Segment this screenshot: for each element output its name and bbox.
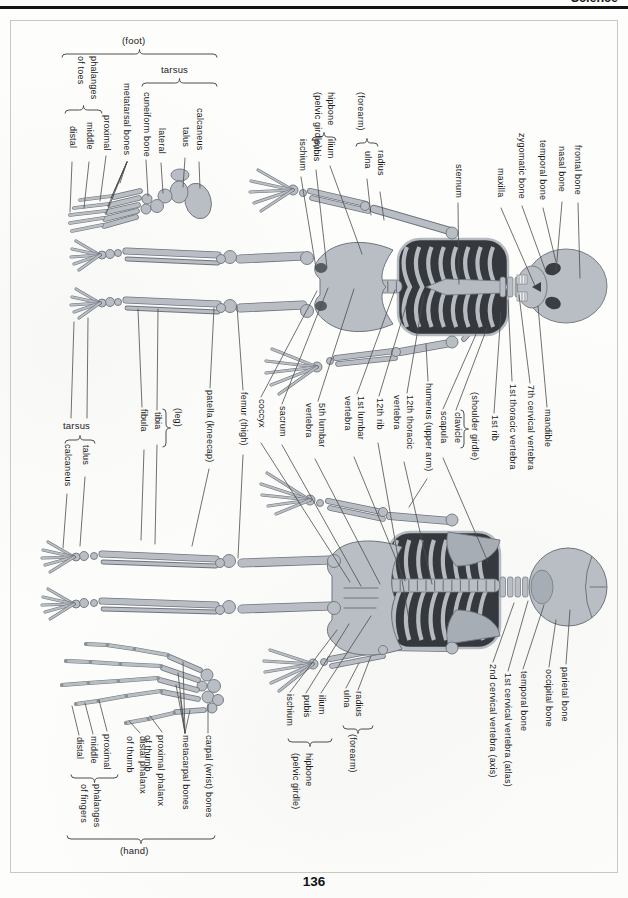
- label-hand-middle: middle: [87, 736, 100, 764]
- label-temporal-bone-back: temporal bone: [517, 671, 530, 731]
- label-phalanges-of-toes: phalanges of toes: [74, 56, 100, 99]
- label-clavicle: clavicle: [451, 412, 464, 443]
- label-metatarsal-bones: metatarsal bones: [120, 83, 133, 155]
- label-foot-group: (foot): [122, 35, 145, 46]
- label-pubis-front: pubis: [310, 139, 323, 162]
- label-lateral: lateral: [155, 128, 168, 154]
- label-metacarpal-bones: metacarpal bones: [179, 735, 192, 810]
- page-number: 136: [0, 874, 628, 889]
- label-femur: femur (thigh): [237, 392, 250, 446]
- label-humerus: humerus (upper arm): [422, 383, 435, 471]
- label-phalanges-of-fingers: phalanges of fingers: [77, 784, 103, 827]
- label-patella: patella (kneecap): [203, 390, 216, 462]
- label-radius-back: radius: [352, 691, 365, 717]
- label-hipbone-pelvic-girdle-back: hipbone (pelvic girdle): [289, 753, 315, 810]
- label-hand-proximal: proximal: [100, 734, 113, 770]
- label-foot-distal: distal: [66, 126, 79, 148]
- label-carpal-wrist-bones: carpal (wrist) bones: [202, 735, 215, 818]
- label-1st-rib: 1st rib: [488, 415, 501, 441]
- label-cuneiform-bone: cuneiform bone: [140, 92, 153, 157]
- label-ischium-back: ischium: [283, 694, 296, 726]
- label-12th-rib: 12th rib: [373, 398, 386, 430]
- label-radius-front: radius: [374, 150, 387, 176]
- label-ilium-front: ilium: [324, 139, 337, 159]
- label-pubis-back: pubis: [300, 695, 313, 718]
- label-mid-talus: talus: [79, 445, 92, 465]
- label-parietal-bone: parietal bone: [558, 667, 571, 722]
- label-1st-lumbar-vertebra: 1st lumbar vertebra: [341, 396, 367, 440]
- label-fibula: fibula: [137, 409, 150, 432]
- label-proximal-phalanx-of-thumb: proximal phalanx of thumb: [141, 735, 167, 806]
- label-coccyx: coccyx: [255, 399, 268, 428]
- label-hand-group: (hand): [120, 845, 149, 856]
- label-7th-cervical-vertebra: 7th cervical vertebra: [524, 385, 537, 470]
- label-foot-proximal: proximal: [100, 115, 113, 151]
- label-mid-calcaneus: calcaneus: [61, 444, 74, 486]
- label-scapula: scapula: [437, 411, 450, 443]
- label-frontal-bone: frontal bone: [571, 145, 584, 195]
- label-sternum: sternum: [452, 164, 465, 198]
- label-1st-thoracic-vertebra: 1st thoracic vertebra: [506, 384, 519, 470]
- label-sacrum: sacrum: [276, 406, 289, 437]
- label-shoulder-girdle-group: (shoulder girdle): [468, 392, 481, 460]
- label-foot-middle: middle: [83, 122, 96, 150]
- label-maxilla: maxilla: [494, 168, 507, 197]
- label-foot-calcaneus: calcaneus: [193, 108, 206, 150]
- label-foot-tarsus-group: tarsus: [161, 64, 188, 75]
- label-ischium-front: ischium: [296, 139, 309, 171]
- label-2nd-cervical-vertebra-axis: 2nd cervical vertebra (axis): [486, 664, 499, 778]
- label-12th-thoracic-vertebra: 12th thoracic vertebra: [390, 395, 416, 449]
- label-nasal-bone: nasal bone: [555, 146, 568, 192]
- label-tibia: tibia: [151, 412, 164, 430]
- label-5th-lumbar-vertebra: 5th lumbar vertebra: [302, 403, 328, 448]
- book-page: Science (foot) phalanges of toes distal …: [0, 0, 628, 898]
- label-leg-group: (leg): [171, 408, 184, 427]
- label-ulna-front: ulna: [361, 151, 374, 169]
- label-ilium-back: ilium: [315, 695, 328, 715]
- label-forearm-back: (forearm): [346, 734, 359, 773]
- label-1st-cervical-vertebra-atlas: 1st cervical vertebra (atlas): [501, 673, 514, 787]
- label-temporal-bone-front: temporal bone: [536, 140, 549, 200]
- label-mandible: mandible: [541, 409, 554, 447]
- label-occipital-bone: occipital bone: [542, 669, 555, 727]
- label-mid-tarsus-group: tarsus: [63, 420, 90, 431]
- label-forearm-front: (forearm): [354, 92, 367, 131]
- label-foot-talus: talus: [179, 127, 192, 147]
- label-zygomatic-bone: zygomatic bone: [515, 133, 528, 199]
- label-hand-distal: distal: [73, 737, 86, 759]
